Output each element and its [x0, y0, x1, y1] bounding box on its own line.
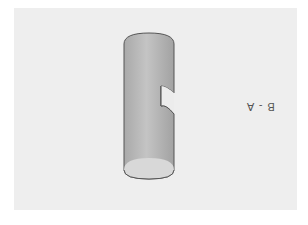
diagram-label: B - A [246, 101, 275, 113]
cylinder-end [124, 158, 174, 179]
